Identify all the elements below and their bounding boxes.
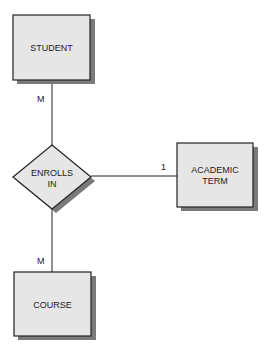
entity-course-label: COURSE <box>33 300 72 310</box>
relationship-label-line2: IN <box>48 179 57 189</box>
entity-student-label: STUDENT <box>30 43 73 53</box>
entity-course: COURSE <box>14 272 96 340</box>
relationship-label-line1: ENROLLS <box>31 168 73 178</box>
relationship-enrolls-in: ENROLLS IN <box>13 145 95 213</box>
entity-student: STUDENT <box>13 15 95 84</box>
entity-academic-term: ACADEMIC TERM <box>177 143 258 211</box>
er-diagram: STUDENT ACADEMIC TERM COURSE ENROLLS IN … <box>0 0 269 345</box>
cardinality-student: M <box>37 94 45 104</box>
cardinality-academic-term: 1 <box>161 162 166 172</box>
cardinality-course: M <box>37 256 45 266</box>
entity-academic-term-label-line2: TERM <box>202 176 228 186</box>
entity-academic-term-label-line1: ACADEMIC <box>191 165 239 175</box>
